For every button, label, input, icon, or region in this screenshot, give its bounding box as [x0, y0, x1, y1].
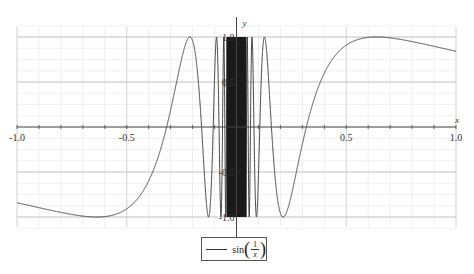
- x-tick-label: 0.5: [340, 132, 353, 143]
- legend: sin ( 1 x ): [201, 237, 267, 261]
- plot-area: -1.0-0.50.51.01.00.5-0.5-1.0xy: [0, 0, 474, 274]
- x-tick-label: -1.0: [9, 132, 25, 143]
- x-tick-label: 1.0: [450, 132, 463, 143]
- legend-func: sin: [232, 244, 244, 255]
- legend-label: sin ( 1 x ): [232, 240, 266, 259]
- right-paren: ): [260, 240, 266, 258]
- y-axis-label: y: [242, 18, 247, 28]
- x-axis-label: x: [454, 115, 459, 125]
- legend-fraction: 1 x: [251, 240, 259, 259]
- left-paren: (: [244, 240, 250, 258]
- fraction-denominator: x: [253, 250, 257, 259]
- y-tick-label: -1.0: [219, 212, 235, 223]
- x-tick-label: -0.5: [119, 132, 135, 143]
- y-tick-label: -0.5: [219, 167, 235, 178]
- y-tick-label: 1.0: [222, 32, 235, 43]
- legend-line-swatch: [206, 249, 227, 250]
- y-tick-label: 0.5: [222, 77, 235, 88]
- fraction-numerator: 1: [251, 240, 259, 250]
